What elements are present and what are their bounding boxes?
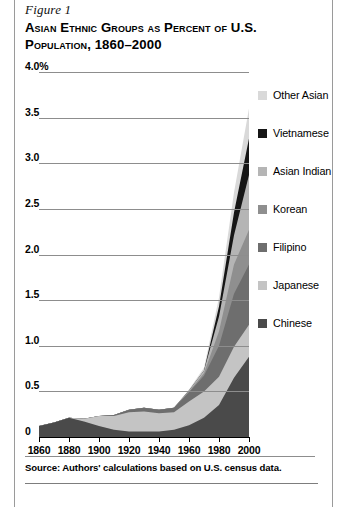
chart-title: Asian Ethnic Groups as Percent of U.S. P… [25, 19, 325, 53]
legend-label: Vietnamese [273, 127, 329, 139]
x-axis-line [39, 437, 249, 438]
x-axis-tick-label: 1960 [178, 444, 201, 456]
y-axis-tick-label: 3.5 [25, 106, 39, 118]
legend-item-other-asian[interactable]: Other Asian [258, 88, 328, 102]
y-axis-tick-label: 4.0% [25, 60, 49, 72]
gridline [39, 300, 249, 301]
source-note: Source: Authors' calculations based on U… [25, 462, 282, 473]
source-divider [25, 456, 315, 457]
x-axis-tick [129, 437, 130, 442]
gridline [39, 118, 249, 119]
legend-item-vietnamese[interactable]: Vietnamese [258, 126, 329, 140]
legend-swatch-icon [258, 167, 267, 176]
x-axis-tick [189, 437, 190, 442]
x-axis-tick-label: 1880 [58, 444, 81, 456]
y-axis-tick-label: 2.0 [25, 243, 39, 255]
gridline [39, 346, 249, 347]
legend-item-japanese[interactable]: Japanese [258, 278, 319, 292]
x-axis-tick-label: 1920 [118, 444, 141, 456]
x-axis-tick-label: 1940 [148, 444, 171, 456]
legend-swatch-icon [258, 91, 267, 100]
legend-label: Chinese [273, 317, 312, 329]
bottom-divider [25, 483, 318, 484]
legend-swatch-icon [258, 129, 267, 138]
legend-label: Japanese [273, 279, 319, 291]
gridline [39, 163, 249, 164]
legend-item-korean[interactable]: Korean [258, 202, 307, 216]
y-axis-tick-label: 2.5 [25, 197, 39, 209]
figure-label: Figure 1 [25, 2, 71, 18]
legend-swatch-icon [258, 205, 267, 214]
y-axis-tick-label: 1.5 [25, 288, 39, 300]
y-axis-tick-label: 0 [25, 425, 31, 437]
x-axis-tick-label: 1980 [208, 444, 231, 456]
y-axis-tick-label: 3.0 [25, 151, 39, 163]
legend-swatch-icon [258, 281, 267, 290]
x-axis-tick [99, 437, 100, 442]
legend-label: Korean [273, 203, 307, 215]
gridline [39, 72, 249, 73]
legend-swatch-icon [258, 243, 267, 252]
x-axis-tick [69, 437, 70, 442]
gridline [39, 255, 249, 256]
x-axis-tick [39, 437, 40, 442]
legend-swatch-icon [258, 319, 267, 328]
x-axis-tick [159, 437, 160, 442]
figure-container: Figure 1 Asian Ethnic Groups as Percent … [14, 0, 333, 507]
x-axis-tick [219, 437, 220, 442]
gridline [39, 209, 249, 210]
x-axis-tick [249, 437, 250, 442]
chart-plot-area: 00.51.01.52.02.53.03.54.0% 1860188019001… [25, 66, 325, 456]
gridline [39, 391, 249, 392]
x-axis-tick-label: 1900 [88, 444, 111, 456]
legend-label: Other Asian [273, 89, 328, 101]
legend-label: Asian Indian [273, 165, 331, 177]
legend-item-asian-indian[interactable]: Asian Indian [258, 164, 331, 178]
x-axis-tick-label: 2000 [238, 444, 261, 456]
legend-item-chinese[interactable]: Chinese [258, 316, 312, 330]
x-axis-tick-label: 1860 [28, 444, 51, 456]
legend-item-filipino[interactable]: Filipino [258, 240, 306, 254]
legend-label: Filipino [273, 241, 306, 253]
y-axis-tick-label: 1.0 [25, 334, 39, 346]
y-axis-tick-label: 0.5 [25, 379, 39, 391]
